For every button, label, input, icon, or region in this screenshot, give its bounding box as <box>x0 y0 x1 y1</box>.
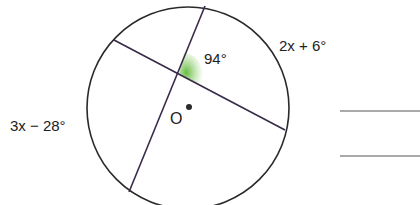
chord-two <box>129 6 205 192</box>
center-point <box>186 104 192 110</box>
arc-label-upper-right: 2x + 6° <box>279 37 326 54</box>
arc-label-left: 3x − 28° <box>10 117 66 134</box>
angle-label: 94° <box>204 50 227 67</box>
chord-one <box>114 40 285 130</box>
circle-diagram <box>0 0 420 205</box>
center-label: O <box>170 110 182 128</box>
